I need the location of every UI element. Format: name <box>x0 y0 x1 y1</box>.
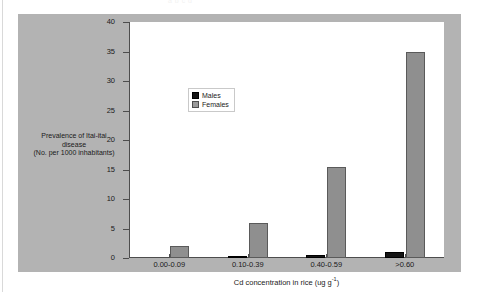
page-edge-line <box>2 0 3 292</box>
y-axis-tick-label: 5 <box>111 224 115 233</box>
bar-group <box>366 22 445 258</box>
y-axis-tick-label: 40 <box>107 17 115 26</box>
x-axis-tick-label: >0.60 <box>366 260 445 269</box>
legend-swatch-males <box>192 92 199 99</box>
x-axis-tick-label: 0.10-0.39 <box>209 260 288 269</box>
legend-swatch-females <box>192 101 199 108</box>
y-axis-title-line3: (No. per 1000 inhabitants) <box>24 149 124 158</box>
x-axis-tick-mark <box>169 254 170 258</box>
bar-groups <box>130 22 444 258</box>
y-axis-tick-label: 35 <box>107 47 115 56</box>
x-axis-title-close: ) <box>337 278 340 287</box>
legend-label: Females <box>202 100 229 109</box>
x-axis-tick-labels: 0.00-0.090.10-0.390.40-0.59>0.60 <box>130 260 444 269</box>
y-axis-title-line2: disease <box>24 141 124 150</box>
legend-label: Males <box>202 91 221 100</box>
bar-group <box>209 22 288 258</box>
y-axis-tick-mark <box>123 111 129 112</box>
bar-females <box>249 223 268 258</box>
bar-males <box>228 256 247 258</box>
x-axis-tick-mark <box>248 254 249 258</box>
y-axis-title: Prevalence of Itai-itai disease (No. per… <box>24 132 124 158</box>
bleed-glyph: a b c d <box>168 0 193 4</box>
y-axis-tick-mark <box>123 199 129 200</box>
y-axis-tick-label: 0 <box>111 253 115 262</box>
figure-panel: 4035302520151050 Prevalence of Itai-itai… <box>18 14 461 272</box>
y-axis-tick-label: 15 <box>107 165 115 174</box>
legend-item-males: Males <box>192 91 229 100</box>
y-axis-tick-mark <box>123 22 129 23</box>
y-axis-tick-mark <box>123 229 129 230</box>
x-axis-tick-mark <box>326 254 327 258</box>
y-axis-title-line1: Prevalence of Itai-itai <box>24 132 124 141</box>
bar-group <box>130 22 209 258</box>
y-axis-tick-mark <box>123 81 129 82</box>
x-axis-tick-label: 0.00-0.09 <box>130 260 209 269</box>
scan-bleed-artifact: a b c d <box>0 0 479 10</box>
x-axis-title-text: Cd concentration in rice (ug g <box>234 278 332 287</box>
bar-females <box>327 167 346 258</box>
bar-females <box>406 52 425 259</box>
bar-group <box>287 22 366 258</box>
y-axis-tick-mark <box>123 170 129 171</box>
legend-item-females: Females <box>192 100 229 109</box>
bar-females <box>170 246 189 258</box>
bar-males <box>385 252 404 258</box>
bar-males <box>306 255 325 258</box>
y-axis-tick-label: 25 <box>107 106 115 115</box>
y-axis-tick-label: 30 <box>107 76 115 85</box>
x-axis-title: Cd concentration in rice (ug g-1) <box>129 276 444 287</box>
chart-legend: MalesFemales <box>188 88 235 112</box>
y-axis-tick-mark <box>123 52 129 53</box>
y-axis-tick-label: 10 <box>107 194 115 203</box>
y-axis-tick-mark <box>123 258 129 259</box>
x-axis-tick-mark <box>405 254 406 258</box>
x-axis-tick-label: 0.40-0.59 <box>287 260 366 269</box>
